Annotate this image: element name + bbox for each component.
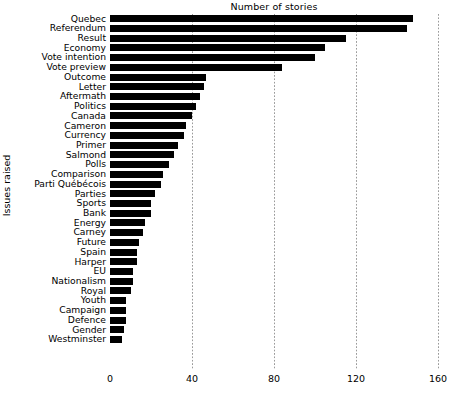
bar (110, 74, 206, 81)
bar-row: Primer (110, 140, 438, 150)
bar-row: Result (110, 33, 438, 43)
bar (110, 142, 178, 149)
x-tick-label-120: 120 (347, 373, 365, 384)
bar (110, 171, 163, 178)
bar-rows: QuebecReferendumResultEconomyVote intent… (110, 14, 438, 344)
bar (110, 326, 124, 333)
bar-category-label: Westminster (48, 334, 106, 344)
gridline-160 (438, 14, 439, 369)
bar-row: Referendum (110, 24, 438, 34)
bar-row: Vote intention (110, 53, 438, 63)
bar (110, 258, 137, 265)
bar-row: Cameron (110, 121, 438, 131)
bar (110, 44, 325, 51)
bar-row: Royal (110, 286, 438, 296)
bar (110, 268, 133, 275)
bar-row: Aftermath (110, 92, 438, 102)
bar-row: Canada (110, 111, 438, 121)
bar (110, 307, 126, 314)
bar (110, 64, 282, 71)
y-axis-title-text: Issues raised (2, 154, 13, 216)
bar (110, 93, 200, 100)
bar-row: Polls (110, 160, 438, 170)
bar-row: Youth (110, 296, 438, 306)
bar (110, 103, 196, 110)
bar-chart-figure: Issues raised Number of stories QuebecRe… (0, 0, 459, 405)
bar (110, 25, 407, 32)
bar (110, 54, 315, 61)
x-tick-label-40: 40 (186, 373, 198, 384)
bar (110, 278, 133, 285)
bar-row: Gender (110, 325, 438, 335)
bar (110, 297, 126, 304)
bar (110, 219, 145, 226)
bar (110, 249, 137, 256)
bar-row: Currency (110, 131, 438, 141)
y-axis-title: Issues raised (0, 0, 15, 370)
x-tick-label-160: 160 (429, 373, 447, 384)
bar-row: Harper (110, 257, 438, 267)
bar-row: Comparison (110, 170, 438, 180)
bar-row: Westminster (110, 335, 438, 345)
bar (110, 239, 139, 246)
bar (110, 336, 122, 343)
bar (110, 132, 184, 139)
x-tick-label-80: 80 (268, 373, 280, 384)
x-axis-ticks: 04080120160 (110, 373, 438, 387)
bar (110, 122, 186, 129)
bar-row: Quebec (110, 14, 438, 24)
bar (110, 112, 192, 119)
bar (110, 317, 126, 324)
bar-row: Outcome (110, 72, 438, 82)
bar-row: Campaign (110, 306, 438, 316)
bar (110, 151, 174, 158)
plot-area: QuebecReferendumResultEconomyVote intent… (110, 14, 438, 369)
bar-row: Vote preview (110, 63, 438, 73)
bar-row: Sports (110, 199, 438, 209)
bar (110, 181, 161, 188)
bar-row: Letter (110, 82, 438, 92)
bar (110, 161, 169, 168)
bar (110, 83, 204, 90)
bar-row: Bank (110, 208, 438, 218)
bar-row: Salmond (110, 150, 438, 160)
bar (110, 210, 151, 217)
bar-row: Parti Québécois (110, 179, 438, 189)
bar (110, 35, 346, 42)
chart-title: Number of stories (110, 1, 438, 12)
bar (110, 229, 143, 236)
bar (110, 287, 131, 294)
bar-row: Nationalism (110, 276, 438, 286)
bar-row: EU (110, 267, 438, 277)
bar (110, 200, 151, 207)
bar-row: Politics (110, 101, 438, 111)
bar (110, 15, 413, 22)
x-tick-label-0: 0 (107, 373, 113, 384)
bar-row: Energy (110, 218, 438, 228)
bar-row: Defence (110, 315, 438, 325)
bar-row: Future (110, 238, 438, 248)
bar (110, 190, 155, 197)
bar-row: Parties (110, 189, 438, 199)
bar-row: Spain (110, 247, 438, 257)
bar-row: Economy (110, 43, 438, 53)
bar-row: Carney (110, 228, 438, 238)
